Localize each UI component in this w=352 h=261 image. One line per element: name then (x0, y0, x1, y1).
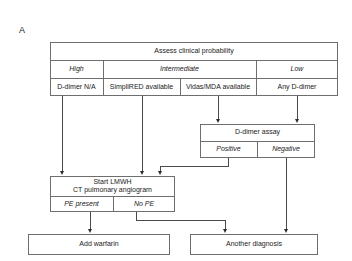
start-lmwh-line1: Start LMWH (93, 178, 131, 187)
another-diagnosis-label: Another diagnosis (190, 234, 318, 255)
panel-label: A (19, 25, 25, 35)
arrow-vidas-to-ddimer (216, 119, 220, 123)
probability-intermediate-cell: Intermediate (103, 60, 256, 78)
test-simplired-cell: SimpliRED available (103, 78, 180, 96)
connector-nope-to-another-diagnosis (225, 220, 226, 229)
arrow-high-to-lmwh (60, 171, 64, 175)
arrow-simplired-to-lmwh (140, 171, 144, 175)
arrow-positive-to-lmwh (158, 171, 162, 175)
pe-present-cell: PE present (50, 196, 113, 212)
connector-negative-to-another-diagnosis (286, 158, 287, 229)
connector-simplired-to-lmwh (142, 96, 143, 172)
test-high-cell: D-dimer N/A (50, 78, 103, 96)
arrow-pe-present-to-warfarin (88, 229, 92, 233)
arrow-anyddimer-to-ddimer (295, 119, 299, 123)
connector-vidas-to-ddimer (218, 96, 219, 119)
assess-header-cell: Assess clinical probability (50, 42, 338, 60)
test-vidas-mda-cell: Vidas/MDA available (180, 78, 256, 96)
connector-nope-right (136, 220, 226, 221)
start-lmwh-header-cell: Start LMWH CT pulmonary angiogram (50, 176, 175, 196)
connector-pe-present-to-warfarin (90, 212, 91, 229)
probability-high-cell: High (50, 60, 103, 78)
ddimer-negative-cell: Negative (257, 141, 315, 158)
start-lmwh-line2: CT pulmonary angiogram (73, 186, 152, 195)
arrow-negative-to-another-diagnosis (284, 229, 288, 233)
no-pe-cell: No PE (113, 196, 175, 212)
connector-high-to-lmwh (62, 96, 63, 172)
ddimer-positive-cell: Positive (200, 141, 257, 158)
connector-positive-left (160, 166, 229, 167)
ddimer-assay-header-cell: D-dimer assay (200, 124, 315, 141)
flowchart-figure: A Assess clinical probability High Inter… (0, 0, 352, 261)
connector-anyddimer-to-ddimer (297, 96, 298, 119)
add-warfarin-label: Add warfarin (28, 234, 170, 255)
probability-low-cell: Low (256, 60, 338, 78)
arrow-nope-to-another-diagnosis (223, 229, 227, 233)
test-any-ddimer-cell: Any D-dimer (256, 78, 338, 96)
